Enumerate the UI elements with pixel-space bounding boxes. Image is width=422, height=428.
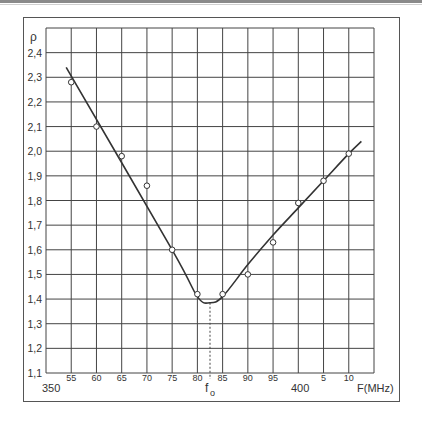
f0-label: f o [205, 381, 215, 398]
y-tick-label: 1,3 [27, 318, 42, 330]
y-tick-label: 2,3 [27, 71, 42, 83]
x-tick-label: 75 [167, 373, 177, 383]
x-tick-label: 90 [243, 373, 253, 383]
data-point [94, 124, 100, 130]
data-point [220, 291, 226, 297]
data-point [169, 247, 175, 253]
x-label-400: 400 [291, 382, 309, 394]
y-tick-label: 2,0 [27, 145, 42, 157]
f0-subscript: o [210, 388, 215, 398]
data-points [68, 79, 351, 297]
x-tick-label: 95 [268, 373, 278, 383]
data-point [245, 272, 251, 278]
y-tick-label: 1,9 [27, 170, 42, 182]
x-tick-label: 70 [142, 373, 152, 383]
data-point [346, 151, 352, 157]
x-tick-labels: 556065707580859095510 [66, 373, 354, 383]
data-point [195, 291, 201, 297]
f0-main: f [205, 381, 209, 395]
fitted-curve [66, 67, 361, 303]
vswr-chart: 2,42,32,22,12,01,91,81,71,61,51,41,31,21… [0, 0, 422, 428]
data-point [119, 153, 125, 159]
y-tick-labels: 2,42,32,22,12,01,91,81,71,61,51,41,31,21… [27, 47, 42, 379]
y-tick-label: 2,1 [27, 121, 42, 133]
y-tick-label: 1,8 [27, 195, 42, 207]
grid [46, 28, 374, 373]
data-point [296, 200, 302, 206]
y-tick-label: 2,2 [27, 96, 42, 108]
y-tick-label: 1,1 [27, 367, 42, 379]
x-axis-unit: F(MHz) [357, 382, 394, 394]
y-tick-label: 1,5 [27, 268, 42, 280]
x-tick-label: 5 [321, 373, 326, 383]
y-tick-label: 1,7 [27, 219, 42, 231]
x-tick-label: 60 [91, 373, 101, 383]
y-tick-label: 1,6 [27, 244, 42, 256]
x-tick-label: 10 [344, 373, 354, 383]
y-tick-label: 1,2 [27, 342, 42, 354]
y-tick-label: 1,4 [27, 293, 42, 305]
y-tick-label: 2,4 [27, 47, 42, 59]
data-point [144, 183, 150, 189]
data-point [321, 178, 327, 184]
x-tick-label: 80 [192, 373, 202, 383]
x-label-350: 350 [42, 382, 60, 394]
y-axis-label: ρ [30, 30, 37, 44]
x-tick-label: 85 [218, 373, 228, 383]
data-point [270, 240, 276, 246]
data-point [68, 79, 74, 85]
x-tick-label: 65 [117, 373, 127, 383]
x-tick-label: 55 [66, 373, 76, 383]
